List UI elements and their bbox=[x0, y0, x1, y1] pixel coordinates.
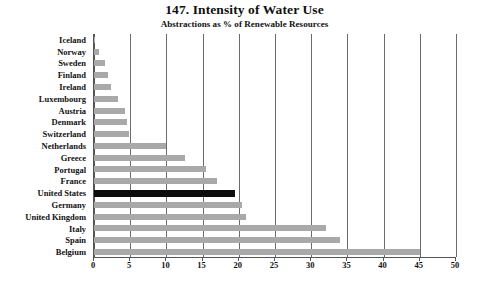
x-axis-tick-label-45: 45 bbox=[415, 261, 424, 270]
bar-row bbox=[94, 34, 455, 46]
y-axis-label-belgium: Belgium bbox=[56, 248, 86, 257]
bar-row bbox=[94, 128, 455, 140]
bar-row bbox=[94, 140, 455, 152]
bar-united-states bbox=[94, 190, 235, 197]
y-axis-labels: IcelandNorwaySwedenFinlandIrelandLuxembo… bbox=[0, 34, 90, 258]
x-axis-tick-label-40: 40 bbox=[378, 261, 387, 270]
x-axis-tick-label-5: 5 bbox=[127, 261, 131, 270]
bar-sweden bbox=[94, 60, 105, 66]
bar-row bbox=[94, 69, 455, 81]
gridline-50 bbox=[456, 34, 457, 257]
x-axis-tick-25 bbox=[274, 257, 275, 261]
y-axis-label-iceland: Iceland bbox=[59, 36, 86, 45]
bar-row bbox=[94, 93, 455, 105]
x-axis-tick-label-30: 30 bbox=[306, 261, 315, 270]
y-axis-label-switzerland: Switzerland bbox=[43, 130, 86, 139]
y-axis-label-ireland: Ireland bbox=[59, 83, 86, 92]
bar-spain bbox=[94, 237, 340, 243]
chart-subtitle: Abstractions as % of Renewable Resources bbox=[0, 19, 489, 29]
bar-iceland bbox=[94, 37, 95, 43]
bar-finland bbox=[94, 72, 108, 78]
bar-row bbox=[94, 105, 455, 117]
x-axis-tick-45 bbox=[419, 257, 420, 261]
plot-area bbox=[93, 34, 455, 258]
x-axis-tick-label-20: 20 bbox=[234, 261, 243, 270]
bar-denmark bbox=[94, 119, 127, 125]
x-axis-tick-label-25: 25 bbox=[270, 261, 279, 270]
chart-title: 147. Intensity of Water Use bbox=[0, 2, 489, 18]
y-axis-label-denmark: Denmark bbox=[52, 118, 86, 127]
bar-belgium bbox=[94, 249, 420, 255]
x-axis-tick-15 bbox=[202, 257, 203, 261]
y-axis-label-italy: Italy bbox=[69, 224, 86, 233]
y-axis-label-france: France bbox=[61, 177, 87, 186]
bar-row bbox=[94, 164, 455, 176]
bar-row bbox=[94, 175, 455, 187]
bar-netherlands bbox=[94, 143, 166, 149]
y-axis-label-germany: Germany bbox=[52, 201, 86, 210]
x-axis-tick-label-0: 0 bbox=[91, 261, 95, 270]
bar-germany bbox=[94, 202, 242, 208]
x-axis-tick-0 bbox=[93, 257, 94, 261]
x-axis-labels: 05101520253035404550 bbox=[93, 261, 455, 277]
y-axis-label-luxembourg: Luxembourg bbox=[39, 95, 86, 104]
bar-row bbox=[94, 152, 455, 164]
y-axis-label-united-kingdom: United Kingdom bbox=[25, 212, 86, 221]
x-axis-tick-5 bbox=[129, 257, 130, 261]
bar-ireland bbox=[94, 84, 111, 90]
x-axis-tick-35 bbox=[346, 257, 347, 261]
x-axis-tick-30 bbox=[310, 257, 311, 261]
bar-row bbox=[94, 234, 455, 246]
bar-row bbox=[94, 58, 455, 70]
y-axis-label-sweden: Sweden bbox=[58, 59, 86, 68]
x-axis-tick-20 bbox=[238, 257, 239, 261]
x-axis-tick-50 bbox=[455, 257, 456, 261]
x-axis-tick-label-15: 15 bbox=[197, 261, 206, 270]
bar-portugal bbox=[94, 166, 206, 172]
y-axis-label-united-states: United States bbox=[38, 189, 86, 198]
bar-greece bbox=[94, 155, 185, 161]
bar-row bbox=[94, 81, 455, 93]
y-axis-label-austria: Austria bbox=[59, 106, 86, 115]
y-axis-label-netherlands: Netherlands bbox=[42, 142, 86, 151]
y-axis-label-finland: Finland bbox=[58, 71, 86, 80]
x-axis-tick-label-50: 50 bbox=[451, 261, 460, 270]
bar-norway bbox=[94, 49, 99, 55]
bar-row bbox=[94, 187, 455, 199]
bar-row bbox=[94, 46, 455, 58]
bar-luxembourg bbox=[94, 96, 118, 102]
y-axis-label-portugal: Portugal bbox=[54, 165, 86, 174]
bar-row bbox=[94, 116, 455, 128]
x-axis-tick-label-10: 10 bbox=[161, 261, 170, 270]
bar-france bbox=[94, 178, 217, 184]
chart-container: 147. Intensity of Water Use Abstractions… bbox=[0, 0, 489, 285]
x-axis-tick-10 bbox=[165, 257, 166, 261]
y-axis-label-norway: Norway bbox=[57, 47, 86, 56]
y-axis-label-spain: Spain bbox=[65, 236, 86, 245]
bar-italy bbox=[94, 225, 326, 231]
bar-austria bbox=[94, 108, 125, 114]
x-axis-tick-40 bbox=[383, 257, 384, 261]
bar-rows bbox=[94, 34, 455, 257]
bar-row bbox=[94, 199, 455, 211]
bar-row bbox=[94, 211, 455, 223]
bar-row bbox=[94, 223, 455, 235]
bar-united-kingdom bbox=[94, 214, 246, 220]
y-axis-label-greece: Greece bbox=[61, 154, 86, 163]
x-axis-tick-label-35: 35 bbox=[342, 261, 351, 270]
bar-switzerland bbox=[94, 131, 129, 137]
